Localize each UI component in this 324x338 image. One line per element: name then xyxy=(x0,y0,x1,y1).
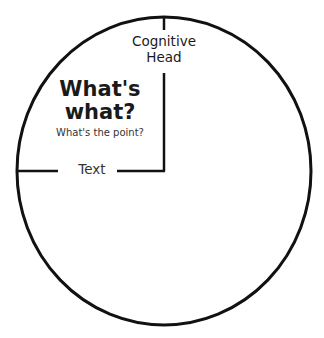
title-line2: what? xyxy=(50,101,150,124)
text-label: Text xyxy=(68,162,116,178)
head-label-line2: Head xyxy=(124,50,204,66)
cognitive-head-label: Cognitive Head xyxy=(124,34,204,65)
title-line1: What's xyxy=(50,78,150,101)
title: What's what? xyxy=(50,78,150,123)
subtitle: What's the point? xyxy=(40,127,160,139)
head-label-line1: Cognitive xyxy=(124,34,204,50)
